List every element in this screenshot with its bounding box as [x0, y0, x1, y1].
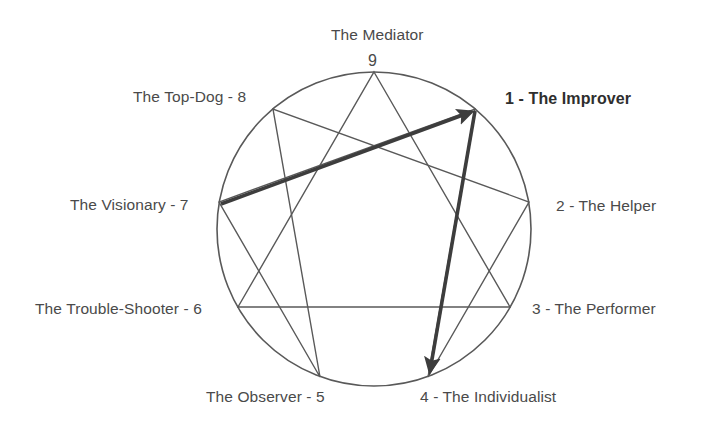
- point-label-8: The Top-Dog - 8: [133, 88, 246, 106]
- inner-triangle-9-3-6: [238, 72, 510, 307]
- point-label-5: The Observer - 5: [206, 388, 325, 406]
- point-label-7: The Visionary - 7: [70, 196, 189, 214]
- enneagram-circle: [217, 72, 531, 386]
- point-label-9-name: The Mediator: [331, 26, 424, 44]
- enneagram-figure: [0, 0, 718, 431]
- enneagram-page: The Mediator 9 1 - The Improver 2 - The …: [0, 0, 718, 431]
- point-label-2: 2 - The Helper: [556, 197, 656, 215]
- point-label-1: 1 - The Improver: [505, 90, 631, 108]
- point-label-9-numeral: 9: [368, 52, 377, 70]
- point-label-6: The Trouble-Shooter - 6: [35, 300, 202, 318]
- arrow-7-to-1: [221, 112, 471, 204]
- point-label-4: 4 - The Individualist: [420, 388, 556, 406]
- arrow-1-to-4: [430, 111, 475, 371]
- point-label-3: 3 - The Performer: [532, 300, 656, 318]
